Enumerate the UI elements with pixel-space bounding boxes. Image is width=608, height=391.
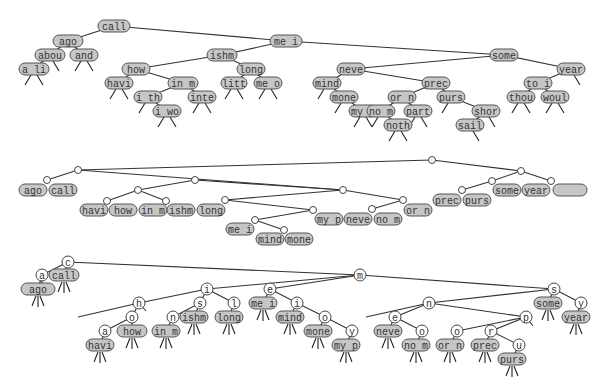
tree-edge: [432, 160, 521, 171]
bst-node: havi: [105, 77, 133, 90]
trie-leaf: me i: [249, 297, 277, 310]
node-label: i wo: [155, 107, 179, 118]
node-label: long: [199, 206, 223, 217]
leaf-leg: [452, 352, 456, 362]
leaf-node: long: [197, 204, 225, 217]
trie-leaf: prec: [471, 339, 499, 352]
trie-node: i: [201, 283, 213, 296]
bst-node: long: [237, 63, 265, 76]
leaf-leg: [32, 296, 36, 306]
leaf-node: year: [522, 184, 550, 197]
branch-point: [489, 178, 496, 185]
node-label: how: [127, 65, 145, 76]
node-label: to i: [526, 79, 550, 90]
leaf-leg: [225, 89, 231, 99]
trie-leaf: my p: [332, 339, 360, 352]
leaf-node: [553, 184, 587, 196]
node-label: prec: [435, 196, 459, 207]
trie-leaf: neve: [374, 325, 402, 338]
trie-leaf: how: [117, 325, 147, 338]
leaf-leg: [546, 103, 552, 113]
trie-leaf: havi: [86, 339, 114, 352]
bst-node: i th: [134, 91, 162, 104]
trie-node-label: a: [102, 327, 108, 338]
node-label: purs: [500, 355, 524, 366]
node-label: my p: [317, 215, 341, 226]
bst-node: how: [122, 63, 150, 76]
bst-node: no m: [367, 105, 395, 118]
branch-point: [281, 227, 288, 234]
trie-node: m: [354, 269, 366, 282]
bst-node: mind: [313, 77, 341, 90]
node-label: abou: [38, 51, 62, 62]
tree-edge: [47, 170, 78, 180]
leaf-leg: [348, 352, 352, 362]
trie-node-label: s: [197, 299, 203, 310]
leaf-node: mind: [256, 233, 284, 246]
trie-node: a: [36, 269, 48, 282]
trie-leaf: ishm: [180, 311, 208, 324]
leaf-leg: [318, 89, 324, 99]
trie-node: s: [548, 283, 560, 296]
leaf-leg: [401, 131, 407, 141]
branch-point: [429, 157, 436, 164]
branch-point: [252, 217, 259, 224]
node-label: me i: [251, 299, 275, 310]
node-label: me i: [274, 37, 298, 48]
node-label: year: [559, 65, 583, 76]
leaf-node: ishm: [167, 204, 195, 217]
trie-leaf: no m: [402, 339, 430, 352]
trie-node: o: [451, 325, 463, 338]
leaf-node: call: [49, 184, 77, 197]
tree-edge: [255, 210, 313, 220]
tree-edge: [114, 26, 286, 41]
leaf-node: ago: [19, 184, 47, 197]
leaf-node: in m: [139, 204, 167, 217]
bst-node: me o: [254, 77, 282, 90]
node-label: how: [123, 327, 141, 338]
leaf-node: neve: [344, 213, 372, 226]
bst-node: in m: [168, 77, 198, 90]
trie-node: o: [416, 325, 428, 338]
branch-point: [459, 187, 466, 194]
leaf-leg: [122, 89, 128, 99]
leaf-leg: [340, 352, 344, 362]
leaf-leg: [506, 366, 510, 376]
tree-edge: [351, 55, 504, 69]
node-label: call: [51, 186, 75, 197]
leaf-leg: [223, 324, 227, 334]
leaf-leg: [158, 117, 164, 127]
leaf-leg: [231, 324, 235, 334]
node-label: havi: [82, 206, 106, 217]
leaf-leg: [382, 338, 386, 348]
trie-node: r: [485, 325, 497, 338]
leaf-leg: [320, 338, 324, 348]
trie-leaf: or n: [436, 339, 464, 352]
trie-node-label: y: [349, 327, 355, 338]
bst-node: part: [404, 105, 432, 118]
leaf-leg: [335, 103, 341, 113]
trie-node-label: n: [170, 313, 176, 324]
node-label: no m: [369, 107, 393, 118]
trie-node-label: o: [322, 313, 328, 324]
bst-node: ago: [53, 35, 83, 48]
node-label: year: [524, 186, 548, 197]
trie-node-label: h: [136, 299, 142, 310]
tree-edge: [492, 171, 521, 181]
trie-leaf: purs: [498, 353, 526, 366]
trie-node: e: [264, 283, 276, 296]
leaf-leg: [196, 324, 200, 334]
leaf-leg: [53, 61, 59, 71]
trie-node-label: p: [523, 313, 529, 324]
node-label: mind: [278, 313, 302, 324]
node-label: mone: [332, 93, 356, 104]
node-label: ago: [29, 285, 47, 296]
leaf-leg: [550, 310, 554, 320]
branch-point: [310, 207, 317, 214]
trie-node: i: [291, 297, 303, 310]
bst-node: mone: [330, 91, 358, 104]
leaf-leg: [570, 324, 574, 334]
leaf-leg: [257, 310, 261, 320]
bst-node: a li: [19, 63, 49, 76]
leaf-leg: [75, 61, 81, 71]
